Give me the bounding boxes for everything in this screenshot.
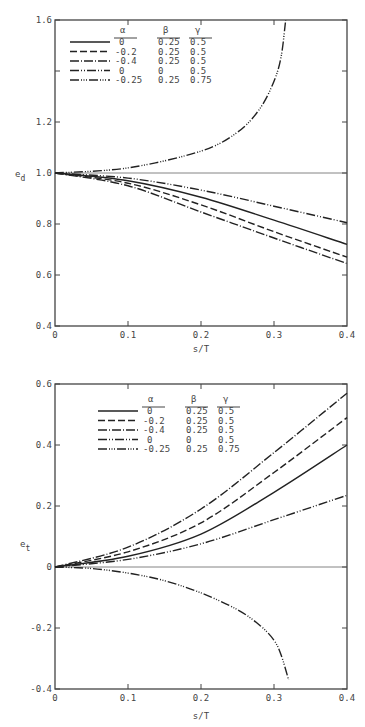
legend-value: 0.25: [186, 406, 208, 416]
legend-value: -0.25: [115, 75, 142, 85]
y-axis-label: et: [20, 539, 30, 553]
legend-value: 0: [186, 435, 191, 445]
data-series: [55, 173, 347, 257]
x-tick-label: 0: [52, 693, 57, 703]
y-tick-label: 0.4: [36, 321, 52, 331]
e-t-chart: 00.10.20.30.4-0.4-0.200.20.40.6ets/Tαβγ0…: [20, 379, 355, 721]
y-tick-label: 1.6: [36, 15, 52, 25]
y-tick-label: 0.8: [36, 219, 52, 229]
legend-value: 0.75: [190, 75, 212, 85]
y-tick-label: 0: [47, 562, 52, 572]
legend-value: 0.5: [190, 66, 206, 76]
legend-value: 0.25: [158, 75, 180, 85]
legend-value: 0.5: [218, 435, 234, 445]
figure: 00.10.20.30.40.40.60.81.01.21.6eds/Tαβγ0…: [0, 0, 365, 727]
legend-value: 0.5: [190, 56, 206, 66]
legend-value: 0: [158, 66, 163, 76]
y-tick-label: 0.6: [36, 270, 52, 280]
x-tick-label: 0.4: [339, 330, 355, 340]
legend-value: -0.4: [143, 425, 165, 435]
data-series: [55, 173, 347, 244]
legend-header: β: [163, 25, 168, 35]
y-tick-label: 1.2: [36, 117, 52, 127]
x-tick-label: 0: [52, 330, 57, 340]
legend-value: 0.5: [190, 37, 206, 47]
x-tick-label: 0.3: [266, 693, 282, 703]
legend-header: α: [148, 394, 154, 404]
legend-header: β: [191, 394, 196, 404]
data-series: [55, 445, 347, 567]
x-tick-label: 0.2: [193, 330, 209, 340]
legend-value: 0.25: [186, 416, 208, 426]
legend-header: α: [120, 25, 126, 35]
legend-value: 0: [147, 406, 152, 416]
y-tick-label: 1.0: [36, 168, 52, 178]
legend-value: 0: [147, 435, 152, 445]
legend-value: 0.25: [158, 37, 180, 47]
y-tick-label: 0.2: [36, 501, 52, 511]
legend-value: 0.25: [186, 444, 208, 454]
legend-value: -0.25: [143, 444, 170, 454]
x-tick-label: 0.1: [120, 330, 136, 340]
x-tick-label: 0.2: [193, 693, 209, 703]
legend: αβγ00.250.5-0.20.250.5-0.40.250.5000.5-0…: [70, 25, 212, 85]
e-d-chart: 00.10.20.30.40.40.60.81.01.21.6eds/Tαβγ0…: [15, 15, 355, 354]
x-tick-label: 0.1: [120, 693, 136, 703]
legend-value: 0.25: [186, 425, 208, 435]
legend-value: 0.75: [218, 444, 240, 454]
legend-value: 0: [119, 66, 124, 76]
data-series: [55, 173, 347, 264]
legend-header: γ: [223, 394, 228, 404]
legend-value: 0.5: [190, 47, 206, 57]
legend-value: 0.25: [158, 47, 180, 57]
legend-value: 0.5: [218, 416, 234, 426]
legend-value: -0.2: [115, 47, 137, 57]
legend-value: 0.5: [218, 406, 234, 416]
y-tick-label: 0.6: [36, 379, 52, 389]
y-tick-label: -0.4: [30, 684, 52, 694]
legend-header: γ: [195, 25, 200, 35]
x-axis-label: s/T: [193, 711, 210, 721]
legend-value: 0.25: [158, 56, 180, 66]
legend-value: -0.4: [115, 56, 137, 66]
legend-value: -0.2: [143, 416, 165, 426]
y-tick-label: -0.2: [30, 623, 52, 633]
legend-value: 0: [119, 37, 124, 47]
data-series: [55, 567, 289, 680]
legend-value: 0.5: [218, 425, 234, 435]
x-tick-label: 0.3: [266, 330, 282, 340]
legend: αβγ00.250.5-0.20.250.5-0.40.250.5000.5-0…: [98, 394, 240, 454]
x-axis-label: s/T: [193, 344, 210, 354]
x-tick-label: 0.4: [339, 693, 355, 703]
y-tick-label: 0.4: [36, 440, 52, 450]
y-axis-label: ed: [15, 169, 25, 183]
